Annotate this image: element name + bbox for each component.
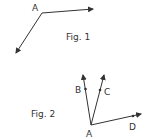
- fig1-vertex-label: A: [32, 3, 39, 13]
- fig2-caption: Fig. 2: [31, 109, 55, 119]
- geometry-diagram: A Fig. 1 B C D A Fig. 2: [0, 0, 146, 139]
- fig2-point-d: [132, 115, 135, 118]
- figure-2: B C D A Fig. 2: [31, 75, 141, 139]
- fig1-caption: Fig. 1: [66, 32, 90, 42]
- fig2-ray-b: [83, 75, 91, 125]
- fig1-ray-down-left: [16, 13, 42, 53]
- fig2-vertex-label: A: [86, 129, 93, 139]
- fig2-label-c: C: [104, 87, 110, 97]
- fig2-label-d: D: [129, 122, 136, 132]
- fig2-point-b: [84, 88, 87, 91]
- figure-1: A Fig. 1: [16, 3, 93, 53]
- fig2-point-c: [99, 89, 102, 92]
- fig2-ray-c: [91, 75, 104, 125]
- fig1-ray-right: [42, 9, 93, 13]
- fig2-label-b: B: [75, 85, 81, 95]
